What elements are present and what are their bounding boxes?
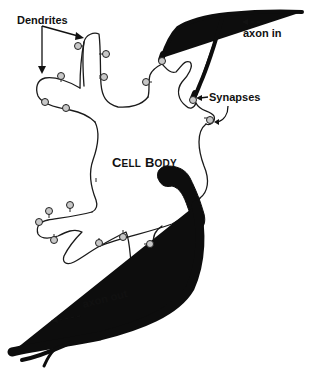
cell-body-label-c: C [112, 155, 122, 170]
synapse-knob [207, 117, 214, 124]
cell-body-left-edge [91, 122, 98, 212]
knob [101, 74, 108, 81]
cell-body-label-ell: ELL [122, 158, 142, 169]
cell-body-right-edge [199, 124, 207, 198]
neuron-illustration [0, 0, 310, 369]
dendrites-pointer-arrows [38, 26, 84, 74]
arrow-head-right [75, 32, 84, 40]
knob [63, 105, 70, 112]
knob [143, 79, 150, 86]
knob [75, 43, 82, 50]
synapse-knob [190, 97, 197, 104]
axon-shaft [12, 205, 200, 352]
knob [51, 237, 58, 244]
knob [46, 208, 53, 215]
cell-body-label: CELL BODY [112, 155, 177, 170]
knob [147, 241, 154, 248]
dendrite-upper-middle [148, 62, 196, 109]
incoming-axon [161, 12, 302, 98]
axon-in-label: axon in [243, 27, 282, 39]
knob [103, 51, 110, 58]
knob [36, 219, 43, 226]
dendrite-tall [80, 33, 148, 107]
neuron-diagram: Dendrites axon in Synapses CELL BODY axo… [0, 0, 310, 369]
cell-body-label-ody: ODY [155, 158, 177, 169]
dendrites-label: Dendrites [17, 14, 68, 26]
dendrite-left-lower [37, 212, 100, 264]
synapse-knob [159, 58, 166, 65]
knob [58, 73, 65, 80]
dendrite-tall-inner [83, 42, 84, 86]
knob [96, 240, 103, 247]
knob [120, 234, 127, 241]
outgoing-axon [12, 166, 205, 366]
arrow-head-down [38, 66, 46, 74]
knob [67, 202, 74, 209]
cell-body-label-b: B [145, 155, 155, 170]
synapses-label: Synapses [209, 91, 260, 103]
knob [42, 99, 49, 106]
